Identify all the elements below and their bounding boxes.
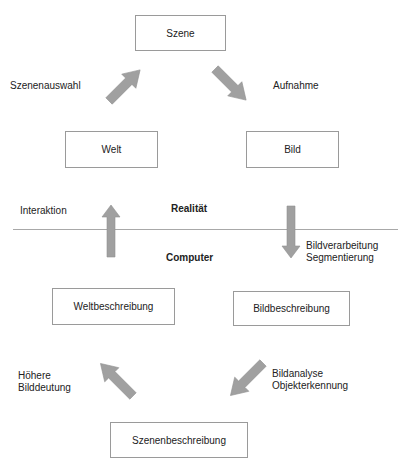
arrow-interaktion-icon bbox=[102, 205, 120, 257]
arrow-aufnahme-icon bbox=[208, 62, 253, 107]
arrow-szenenauswahl-icon bbox=[102, 63, 147, 108]
arrow-hoehere-bilddeutung-icon bbox=[93, 356, 140, 403]
arrow-bildanalyse-icon bbox=[223, 356, 270, 403]
arrow-bildverarbeitung-icon bbox=[282, 206, 300, 258]
arrows-layer bbox=[0, 0, 407, 470]
